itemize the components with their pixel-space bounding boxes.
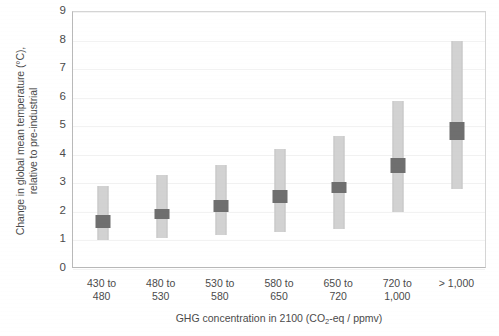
gridline	[73, 240, 485, 241]
gridline	[73, 126, 485, 127]
median-block	[332, 182, 347, 193]
x-axis-title-part2: -eq / ppmv)	[329, 312, 382, 324]
y-tick-label: 0	[60, 262, 66, 274]
y-tick-label: 9	[60, 5, 66, 17]
chart-figure: Change in global mean temperature (°C), …	[0, 0, 499, 336]
y-tick-label: 5	[60, 119, 66, 131]
plot-area	[72, 11, 486, 268]
median-block	[391, 158, 406, 174]
median-block	[95, 215, 110, 228]
y-tick-label: 3	[60, 177, 66, 189]
y-tick-label: 4	[60, 148, 66, 160]
gridline	[73, 69, 485, 70]
y-axis-ticks: 0123456789	[0, 0, 72, 257]
range-bar	[156, 175, 167, 238]
range-bar	[393, 101, 404, 212]
y-tick-label: 1	[60, 234, 66, 246]
median-block	[273, 190, 288, 203]
gridline	[73, 269, 485, 270]
range-bar	[452, 41, 463, 189]
gridline	[73, 12, 485, 13]
y-tick-label: 2	[60, 205, 66, 217]
gridline	[73, 98, 485, 99]
median-block	[213, 200, 228, 211]
gridline	[73, 41, 485, 42]
y-tick-label: 7	[60, 62, 66, 74]
x-tick-label-line1: > 1,000	[418, 277, 494, 290]
x-tick-label: > 1,000	[418, 277, 494, 290]
y-tick-label: 8	[60, 34, 66, 46]
y-tick-label: 6	[60, 91, 66, 103]
x-tick-label-line2: 1,000	[359, 290, 435, 303]
x-axis-title-part1: GHG concentration in 2100 (CO	[176, 312, 325, 324]
median-block	[450, 122, 465, 141]
x-axis-title: GHG concentration in 2100 (CO2-eq / ppmv…	[72, 312, 486, 326]
median-block	[154, 209, 169, 219]
range-bar	[97, 186, 108, 240]
